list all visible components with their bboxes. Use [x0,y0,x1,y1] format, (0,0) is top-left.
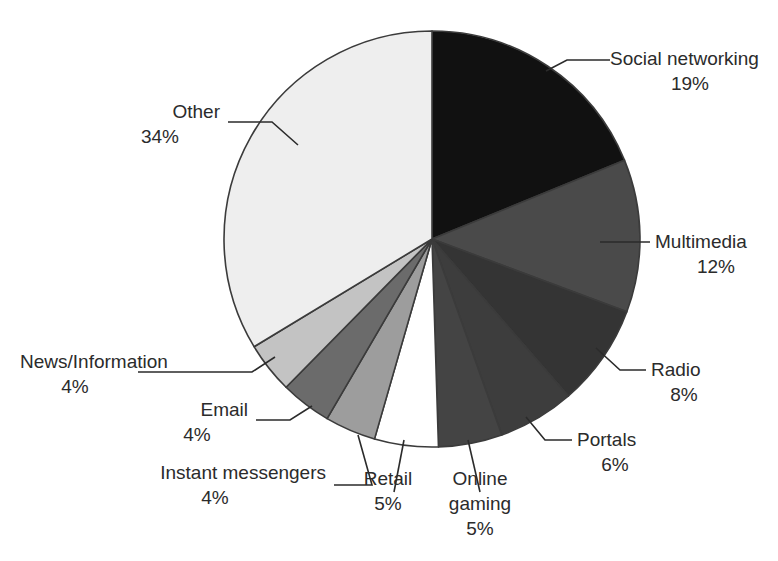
slice-label-retail: Retail 5% [346,466,430,516]
slice-label-multimedia-percent: 12% [655,254,777,279]
slice-label-news-information-name: News/Information [20,351,168,372]
leader-line-email [256,406,312,420]
slice-label-instant-messengers: Instant messengers 4% [104,460,326,510]
slice-label-other: Other 34% [100,99,220,149]
slice-label-multimedia: Multimedia 12% [655,229,777,279]
slice-label-news-information-percent: 4% [20,374,130,399]
slice-label-email-name: Email [200,399,248,420]
slice-label-portals-percent: 6% [577,452,653,477]
slice-label-retail-percent: 5% [346,491,430,516]
slice-label-online-gaming-name-line1: Online [453,468,508,489]
slice-label-email-percent: 4% [146,422,248,447]
slice-label-instant-messengers-name: Instant messengers [160,462,326,483]
slice-label-portals-name: Portals [577,429,636,450]
slice-label-radio-name: Radio [651,359,701,380]
slice-label-other-percent: 34% [100,124,220,149]
slice-label-social-networking-percent: 19% [610,71,770,96]
slice-label-online-gaming-name-line2: gaming [430,491,530,516]
slice-label-multimedia-name: Multimedia [655,231,747,252]
slice-label-news-information: News/Information 4% [20,349,130,399]
leader-line-social-networking [546,60,610,71]
slice-label-portals: Portals 6% [577,427,653,477]
pie-slice-group [224,31,640,447]
slice-label-radio-percent: 8% [651,382,717,407]
slice-label-radio: Radio 8% [651,357,717,407]
slice-label-social-networking-name: Social networking [610,48,759,69]
slice-label-instant-messengers-percent: 4% [104,485,326,510]
slice-label-online-gaming: Online gaming 5% [430,466,530,541]
slice-label-email: Email 4% [146,397,248,447]
slice-label-retail-name: Retail [364,468,413,489]
slice-label-social-networking: Social networking 19% [610,46,770,96]
pie-chart-page: Social networking 19% Multimedia 12% Rad… [0,0,778,561]
slice-label-other-name: Other [172,101,220,122]
slice-label-online-gaming-percent: 5% [430,516,530,541]
